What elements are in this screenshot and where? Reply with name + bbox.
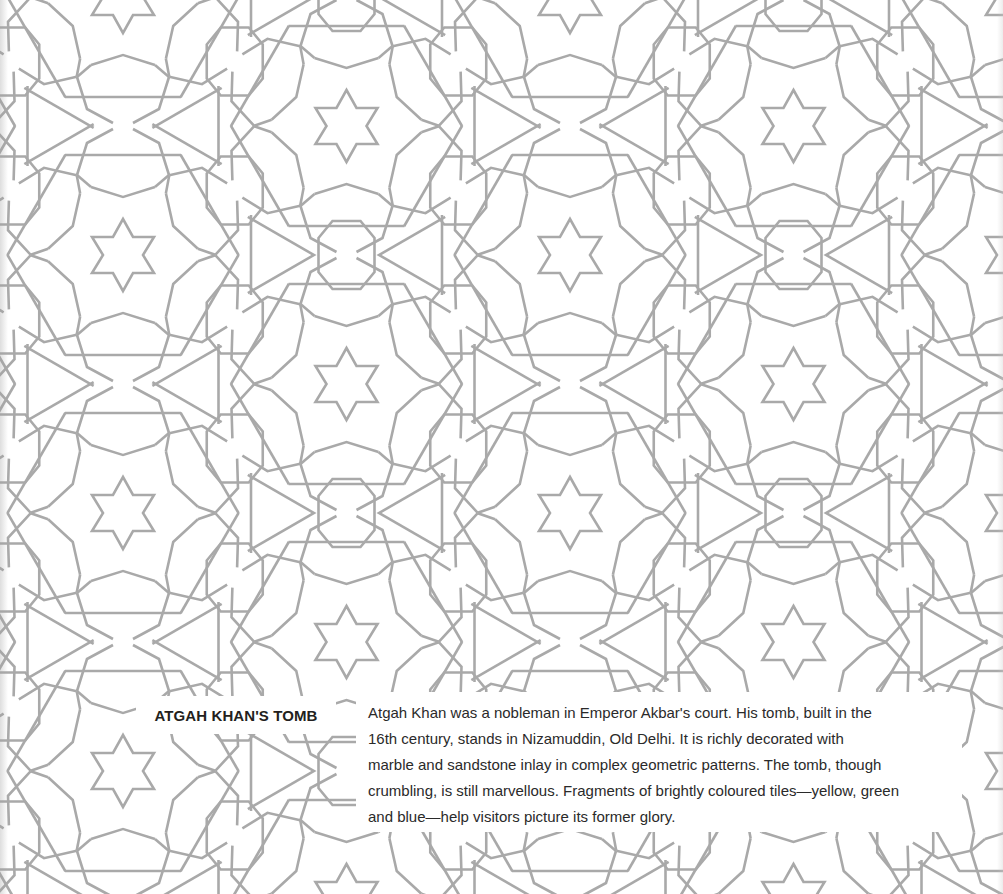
- page-edge-shadow: [997, 0, 1003, 894]
- caption-line: Atgah Khan was a nobleman in Emperor Akb…: [368, 700, 958, 726]
- caption-body-box: Atgah Khan was a nobleman in Emperor Akb…: [356, 692, 962, 832]
- caption-title-box: ATGAH KHAN'S TOMB: [136, 696, 336, 734]
- caption-line: marble and sandstone inlay in complex ge…: [368, 752, 958, 778]
- caption-line: 16th century, stands in Nizamuddin, Old …: [368, 726, 958, 752]
- caption-line: crumbling, is still marvellous. Fragment…: [368, 778, 958, 804]
- caption-line: and blue—help visitors picture its forme…: [368, 804, 958, 830]
- page-binding-shadow: [0, 0, 8, 894]
- caption-body: Atgah Khan was a nobleman in Emperor Akb…: [368, 700, 958, 830]
- caption-title: ATGAH KHAN'S TOMB: [154, 707, 317, 724]
